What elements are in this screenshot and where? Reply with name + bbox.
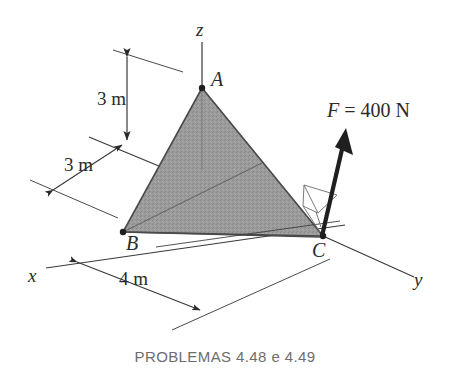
force-vector-arrowhead <box>335 128 353 155</box>
point-label-b: B <box>126 233 138 253</box>
figure-caption: PROBLEMAS 4.48 e 4.49 <box>0 348 450 365</box>
plate-fill <box>123 88 323 236</box>
dimension-label-depth: 3 m <box>64 155 93 174</box>
dim-extension-lower-left <box>30 180 118 218</box>
dimension-span-4m <box>77 259 330 330</box>
force-magnitude-label: F = 400 N <box>327 100 410 120</box>
dim-extension-top <box>113 50 183 72</box>
force-symbol: F <box>327 99 339 121</box>
vertex-dot-a <box>199 85 205 91</box>
dim-extension-bottom-right <box>172 259 330 330</box>
statics-diagram <box>0 0 450 383</box>
axis-label-y: y <box>414 270 422 289</box>
dimension-label-span: 4 m <box>119 269 148 288</box>
axis-y-line <box>323 236 414 277</box>
point-label-a: A <box>211 69 223 89</box>
figure-container: z x y A B C 3 m 3 m 4 m F = 400 N PROBLE… <box>0 0 450 383</box>
point-label-c: C <box>312 240 325 260</box>
dimension-label-height: 3 m <box>97 89 126 108</box>
plate-abc <box>123 88 340 247</box>
force-equals: = <box>339 99 360 121</box>
force-vector-f <box>322 128 353 236</box>
axis-label-z: z <box>196 20 203 39</box>
force-magnitude-value: 400 N <box>361 99 410 121</box>
axis-label-x: x <box>28 266 36 285</box>
